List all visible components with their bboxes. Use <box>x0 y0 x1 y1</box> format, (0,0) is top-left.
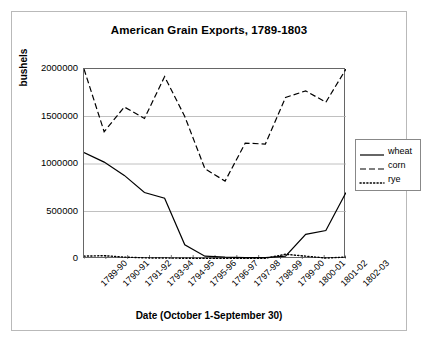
chart-container: American Grain Exports, 1789-1803 050000… <box>0 0 435 353</box>
legend-item-corn[interactable]: corn <box>359 158 417 172</box>
gridlines <box>84 117 346 212</box>
y-tick-label: 0 <box>8 253 78 263</box>
legend-label: rye <box>388 174 401 184</box>
legend-swatch-solid-icon <box>359 146 385 156</box>
series-line-wheat <box>84 153 346 258</box>
chart-legend: wheatcornrye <box>355 139 421 191</box>
chart-title: American Grain Exports, 1789-1803 <box>11 24 407 36</box>
y-axis-title: bushels <box>18 23 29 113</box>
legend-swatch-dotted-icon <box>359 174 385 184</box>
legend-item-rye[interactable]: rye <box>359 172 417 186</box>
plot-svg <box>84 69 346 259</box>
y-tick-label: 1000000 <box>8 158 78 168</box>
legend-label: wheat <box>388 146 412 156</box>
plot-area <box>83 68 345 258</box>
x-axis-title: Date (October 1-September 30) <box>11 310 407 321</box>
legend-item-wheat[interactable]: wheat <box>359 144 417 158</box>
legend-label: corn <box>388 160 406 170</box>
legend-swatch-dashed-icon <box>359 160 385 170</box>
x-axis-tick-labels: 1789-901790-911791-921793-941794-951795-… <box>83 258 345 310</box>
y-tick-label: 500000 <box>8 206 78 216</box>
